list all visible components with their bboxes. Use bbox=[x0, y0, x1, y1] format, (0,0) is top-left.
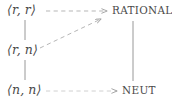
node-neut: NEUT bbox=[122, 85, 156, 95]
lattice-diagram: ⟨r, r⟩ ⟨r, n⟩ ⟨n, n⟩ RATIONAL NEUT bbox=[0, 0, 172, 103]
node-rational: RATIONAL bbox=[112, 5, 172, 15]
node-r-n: ⟨r, n⟩ bbox=[7, 44, 38, 57]
edge-rn-rational bbox=[40, 19, 101, 48]
node-r-r: ⟨r, r⟩ bbox=[7, 4, 36, 17]
node-n-n: ⟨n, n⟩ bbox=[7, 84, 41, 97]
